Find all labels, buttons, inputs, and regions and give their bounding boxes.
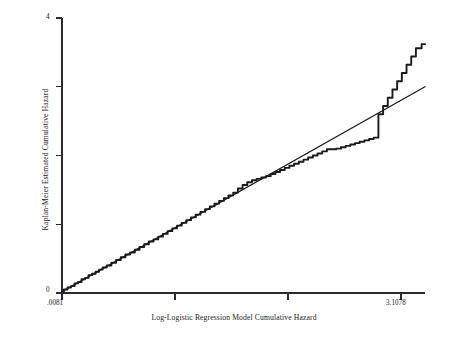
y-axis-ticks [56, 18, 62, 293]
x-axis-ticks [62, 293, 401, 300]
x-axis-min-label: .0081 [47, 299, 63, 307]
y-axis-max-label: 4 [46, 13, 50, 21]
kaplan-meier-series [62, 44, 425, 292]
axes-group [62, 18, 425, 293]
x-axis-max-label: 3.1078 [386, 299, 406, 307]
chart-figure: 4 0 .0081 3.1078 Log-Logistic Regression… [0, 0, 468, 337]
cumulative-hazard-plot [0, 0, 468, 337]
x-axis-title: Log-Logistic Regression Model Cumulative… [0, 313, 468, 322]
y-axis-title: Kaplan-Meier Estimated Cumulative Hazard [41, 30, 50, 290]
